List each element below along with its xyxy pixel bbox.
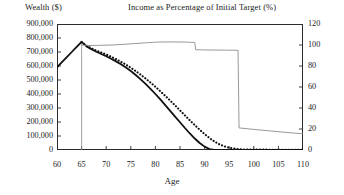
right-tick-label: 120 [308,19,320,28]
left-tick-label: 0 [0,145,53,154]
left-tick-label: 400,000 [0,89,53,98]
left-tick-label: 100,000 [0,131,53,140]
x-tick-label: 90 [192,160,218,169]
x-tick-label: 100 [241,160,267,169]
right-tick-label: 20 [308,124,316,133]
x-tick-label: 70 [93,160,119,169]
left-tick-label: 700,000 [0,47,53,56]
x-tick-label: 60 [44,160,70,169]
left-tick-label: 500,000 [0,75,53,84]
x-tick-label: 75 [118,160,144,169]
left-tick-label: 600,000 [0,61,53,70]
series-wealth-alternative-dotted [82,42,303,150]
right-axis-title: Income as Percentage of Initial Target (… [128,2,276,12]
chart-figure: Wealth ($) Income as Percentage of Initi… [0,0,344,195]
left-tick-label: 900,000 [0,19,53,28]
right-tick-label: 0 [308,145,312,154]
left-tick-label: 800,000 [0,33,53,42]
plot-canvas [57,24,303,150]
right-tick-label: 100 [308,40,320,49]
right-tick-label: 80 [308,61,316,70]
series-wealth-solid [57,42,303,150]
x-tick-label: 85 [167,160,193,169]
right-tick-label: 40 [308,103,316,112]
left-tick-label: 300,000 [0,103,53,112]
plot-area [57,24,303,150]
x-axis-title: Age [0,176,344,186]
x-tick-label: 110 [290,160,316,169]
x-tick-label: 65 [69,160,95,169]
right-tick-label: 60 [308,82,316,91]
series-income-as-percentage-of-initial-target [82,42,303,134]
x-tick-label: 105 [265,160,291,169]
x-tick-label: 95 [216,160,242,169]
x-axis-tick-labels: 6065707580859095100105110 [0,160,344,172]
left-axis-title: Wealth ($) [25,2,62,12]
x-tick-label: 80 [142,160,168,169]
left-tick-label: 200,000 [0,117,53,126]
